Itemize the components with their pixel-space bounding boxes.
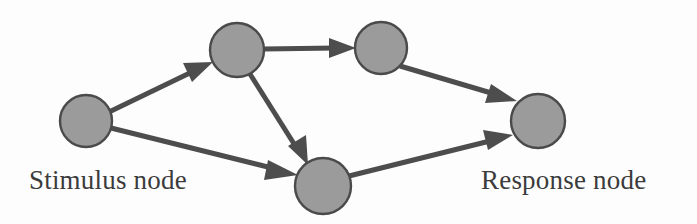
- node-hidden-top-right[interactable]: [355, 22, 407, 74]
- network-diagram-figure: Stimulus node Response node: [0, 0, 697, 224]
- response-node-label: Response node: [481, 167, 646, 194]
- stimulus-node-label: Stimulus node: [29, 167, 187, 194]
- node-stimulus[interactable]: [60, 95, 112, 147]
- node-hidden-bottom[interactable]: [295, 158, 351, 214]
- edge-stimulus-to-hidden-top-left: [109, 62, 213, 112]
- edge-hidden-top-left-to-hidden-bottom: [250, 74, 308, 165]
- node-response[interactable]: [511, 94, 565, 148]
- edge-hidden-top-right-to-response: [400, 66, 517, 103]
- node-hidden-top-left[interactable]: [210, 23, 264, 77]
- edge-hidden-top-left-to-hidden-top-right: [264, 38, 356, 58]
